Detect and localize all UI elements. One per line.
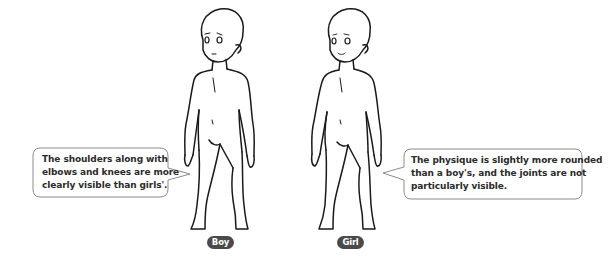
boy-description-line: clearly visible than girls'.: [42, 179, 179, 192]
girl-description-line: particularly visible.: [411, 180, 602, 193]
boy-description-line: The shoulders along with: [42, 153, 179, 166]
boy-label-badge: Boy: [207, 236, 234, 249]
girl-description-line: than a boy's, and the joints are not: [411, 167, 602, 180]
girl-description-line: The physique is slightly more rounded: [411, 154, 602, 167]
boy-description-line: elbows and knees are more: [42, 166, 179, 179]
girl-label-badge: Girl: [337, 236, 364, 249]
speech-bubbles: [0, 0, 611, 267]
girl-description: The physique is slightly more rounded th…: [411, 154, 602, 193]
boy-description: The shoulders along with elbows and knee…: [42, 153, 179, 192]
